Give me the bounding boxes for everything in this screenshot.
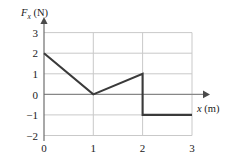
y-tick-label-1: 1 (33, 68, 39, 80)
y-tick-label-minus2: −2 (26, 130, 38, 142)
y-tick-label-0: 0 (33, 89, 39, 101)
force-position-chart: 3 2 1 0 −1 −2 0 1 2 3 Fx (N) x (m) (0, 0, 239, 162)
x-tick-label-3: 3 (189, 142, 195, 154)
x-tick-label-2: 2 (140, 142, 146, 154)
y-tick-label-minus1: −1 (26, 109, 38, 121)
x-tick-label-0: 0 (41, 142, 47, 154)
y-tick-label-2: 2 (33, 47, 39, 59)
chart-canvas: 3 2 1 0 −1 −2 0 1 2 3 Fx (N) x (m) (0, 0, 239, 162)
x-axis-title: x (m) (196, 103, 220, 115)
y-tick-label-3: 3 (33, 27, 39, 39)
x-axis-title-unit: (m) (204, 103, 220, 115)
y-axis-title-unit: (N) (33, 7, 48, 19)
x-tick-label-1: 1 (91, 142, 97, 154)
